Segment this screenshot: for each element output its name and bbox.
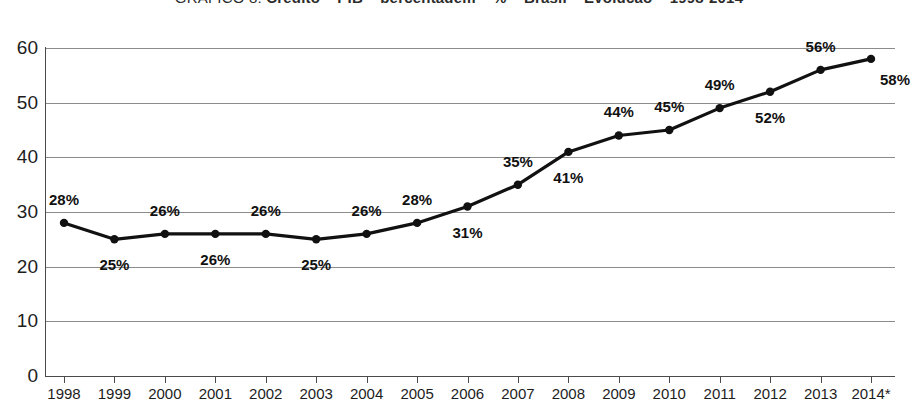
data-label-1998: 28% <box>49 190 79 207</box>
data-label-1999: 25% <box>99 256 129 273</box>
data-label-2012: 52% <box>755 108 785 125</box>
data-label-2013: 56% <box>806 37 836 54</box>
line-series <box>0 0 918 419</box>
series-polyline <box>64 59 871 239</box>
data-point-2000 <box>161 230 169 238</box>
data-label-2002: 26% <box>251 201 281 218</box>
data-label-2010: 45% <box>654 98 684 115</box>
series-markers <box>60 55 875 244</box>
data-point-1998 <box>60 219 68 227</box>
data-label-2008: 41% <box>553 168 583 185</box>
data-label-2006: 31% <box>452 223 482 240</box>
data-point-2013 <box>816 66 824 74</box>
data-label-2004: 26% <box>352 201 382 218</box>
data-label-2009: 44% <box>604 103 634 120</box>
data-point-2009 <box>615 131 623 139</box>
data-label-2001: 26% <box>200 250 230 267</box>
data-label-2014: 58% <box>880 70 910 87</box>
data-label-2011: 49% <box>705 76 735 93</box>
data-label-2005: 28% <box>402 190 432 207</box>
data-point-2005 <box>413 219 421 227</box>
data-point-2007 <box>514 181 522 189</box>
data-point-2006 <box>463 202 471 210</box>
data-point-1999 <box>110 235 118 243</box>
data-point-2002 <box>262 230 270 238</box>
data-point-2003 <box>312 235 320 243</box>
data-label-2003: 25% <box>301 256 331 273</box>
data-point-2014 <box>867 55 875 63</box>
data-point-2012 <box>766 88 774 96</box>
data-point-2008 <box>564 148 572 156</box>
data-point-2010 <box>665 126 673 134</box>
chart-figure: GRÁFICO 8: Crédito – PIB – percentagem –… <box>0 0 918 419</box>
data-label-2000: 26% <box>150 201 180 218</box>
data-point-2001 <box>211 230 219 238</box>
data-label-2007: 35% <box>503 152 533 169</box>
data-point-2011 <box>716 104 724 112</box>
data-point-2004 <box>362 230 370 238</box>
